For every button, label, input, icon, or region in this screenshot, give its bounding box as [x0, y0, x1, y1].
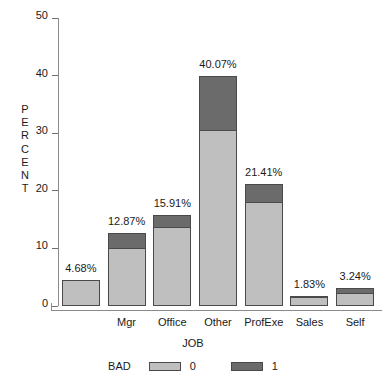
y-axis-title-letter: R	[18, 129, 32, 142]
y-axis-title-letter: E	[18, 116, 32, 129]
legend-label-1: 1	[272, 360, 278, 372]
bar-segment-0[interactable]	[108, 248, 146, 306]
plot-area: 4.68%12.87%15.91%40.07%21.41%1.83%3.24%	[58, 18, 378, 306]
x-axis-category-label: Mgr	[104, 316, 150, 328]
bar-segment-0[interactable]	[153, 227, 191, 306]
y-axis-tick-label: 40	[36, 68, 48, 79]
bar-segment-1[interactable]	[245, 184, 283, 203]
bar-segment-1[interactable]	[199, 76, 237, 131]
bar-group[interactable]: 3.24%	[336, 18, 374, 306]
bar-data-label: 3.24%	[340, 271, 371, 282]
x-axis-category-label: Office	[149, 316, 195, 328]
bar-segment-0[interactable]	[336, 293, 374, 306]
stacked-bar-chart: PERCENT 01020304050 4.68%12.87%15.91%40.…	[0, 0, 386, 386]
x-axis-category-label: Other	[195, 316, 241, 328]
bar-stack	[290, 296, 328, 306]
bar-data-label: 4.68%	[65, 263, 96, 274]
y-axis-title: PERCENT	[18, 103, 32, 195]
bar-group[interactable]: 4.68%	[62, 18, 100, 306]
legend-swatch-0	[149, 362, 181, 371]
y-axis-tick-label: 20	[36, 183, 48, 194]
x-axis-line	[51, 310, 382, 311]
x-axis-title: JOB	[0, 337, 386, 349]
y-axis-tick-label: 30	[36, 125, 48, 136]
x-axis-category-label: Sales	[287, 316, 333, 328]
bar-group[interactable]: 15.91%	[153, 18, 191, 306]
bar-data-label: 40.07%	[199, 59, 236, 70]
bar-data-label: 1.83%	[294, 279, 325, 290]
legend-item-0[interactable]: 0	[149, 360, 196, 372]
y-axis-title-letter: T	[18, 182, 32, 195]
bar-group[interactable]: 12.87%	[108, 18, 146, 306]
bar-segment-0[interactable]	[245, 202, 283, 306]
y-axis-tick-label: 10	[36, 240, 48, 251]
bar-segment-0[interactable]	[62, 280, 100, 306]
bar-segment-0[interactable]	[290, 297, 328, 306]
y-axis-title-letter: P	[18, 103, 32, 116]
bar-group[interactable]: 40.07%	[199, 18, 237, 306]
legend-item-1[interactable]: 1	[231, 360, 278, 372]
bar-stack	[199, 76, 237, 306]
x-axis-category-label: ProfExe	[241, 316, 287, 328]
y-axis-title-letter: E	[18, 156, 32, 169]
bar-segment-0[interactable]	[199, 130, 237, 306]
bar-stack	[108, 233, 146, 306]
y-axis-title-letter: C	[18, 143, 32, 156]
bar-data-label: 21.41%	[245, 167, 282, 178]
legend-label-0: 0	[190, 360, 196, 372]
bar-stack	[62, 280, 100, 306]
legend-swatch-1	[231, 362, 263, 371]
bar-stack	[153, 215, 191, 306]
bar-stack	[336, 288, 374, 306]
bar-segment-1[interactable]	[108, 233, 146, 249]
bar-stack	[245, 184, 283, 306]
bar-data-label: 12.87%	[108, 216, 145, 227]
legend: BAD 0 1	[0, 360, 386, 372]
x-axis-origin-stub	[51, 303, 52, 311]
y-axis-tick-label: 0	[42, 298, 48, 309]
y-axis-tick-label: 50	[36, 10, 48, 21]
bar-group[interactable]: 21.41%	[245, 18, 283, 306]
bar-data-label: 15.91%	[154, 198, 191, 209]
y-axis-title-letter: N	[18, 169, 32, 182]
bar-group[interactable]: 1.83%	[290, 18, 328, 306]
x-axis-category-label: Self	[332, 316, 378, 328]
legend-title: BAD	[108, 360, 131, 372]
